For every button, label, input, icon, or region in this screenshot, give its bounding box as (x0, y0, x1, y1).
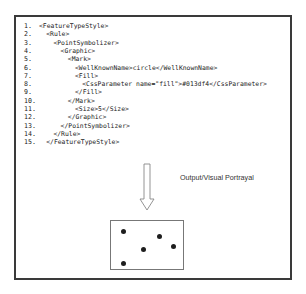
line-number: 2. (24, 30, 32, 38)
line-number: 1. (24, 22, 32, 30)
code-line: <Rule> (46, 30, 69, 38)
code-line: <FeatureTypeStyle> (39, 22, 108, 30)
line-number: 5. (24, 55, 32, 63)
code-line: <Mark> (68, 55, 91, 63)
line-number: 6. (24, 64, 32, 72)
output-caption: Output/Visual Portrayal (180, 173, 254, 182)
code-line: <Fill> (75, 72, 98, 80)
code-line: </Mark> (68, 97, 95, 105)
code-line: </PointSymbolizer> (61, 122, 130, 130)
code-line: <WellKnownName>circle</WellKnownName> (75, 64, 217, 72)
code-line: <Graphic> (61, 47, 96, 55)
point-marker (121, 229, 126, 234)
code-line: <PointSymbolizer> (53, 39, 118, 47)
line-number: 11. (24, 105, 36, 113)
code-line: <CssParameter name="fill">#013df4</CssPa… (82, 80, 267, 88)
line-number: 12. (24, 113, 36, 121)
code-line: </FeatureTypeStyle> (46, 138, 119, 146)
line-number: 15. (24, 138, 36, 146)
line-number: 3. (24, 39, 32, 47)
line-number: 4. (24, 47, 32, 55)
line-number: 7. (24, 72, 32, 80)
point-marker (141, 247, 146, 252)
point-marker (121, 261, 126, 266)
point-marker (171, 244, 176, 249)
line-number: 14. (24, 130, 36, 138)
code-line: </Fill> (75, 88, 102, 96)
visual-portrayal-box (110, 220, 184, 270)
point-marker (157, 234, 162, 239)
code-line: </Graphic> (68, 113, 106, 121)
code-line: <Size>5</Size> (75, 105, 129, 113)
line-number: 10. (24, 97, 36, 105)
line-number: 9. (24, 88, 32, 96)
down-arrow-icon (139, 163, 155, 212)
line-number: 13. (24, 122, 36, 130)
code-line: </Rule> (53, 130, 80, 138)
line-number: 8. (24, 80, 32, 88)
